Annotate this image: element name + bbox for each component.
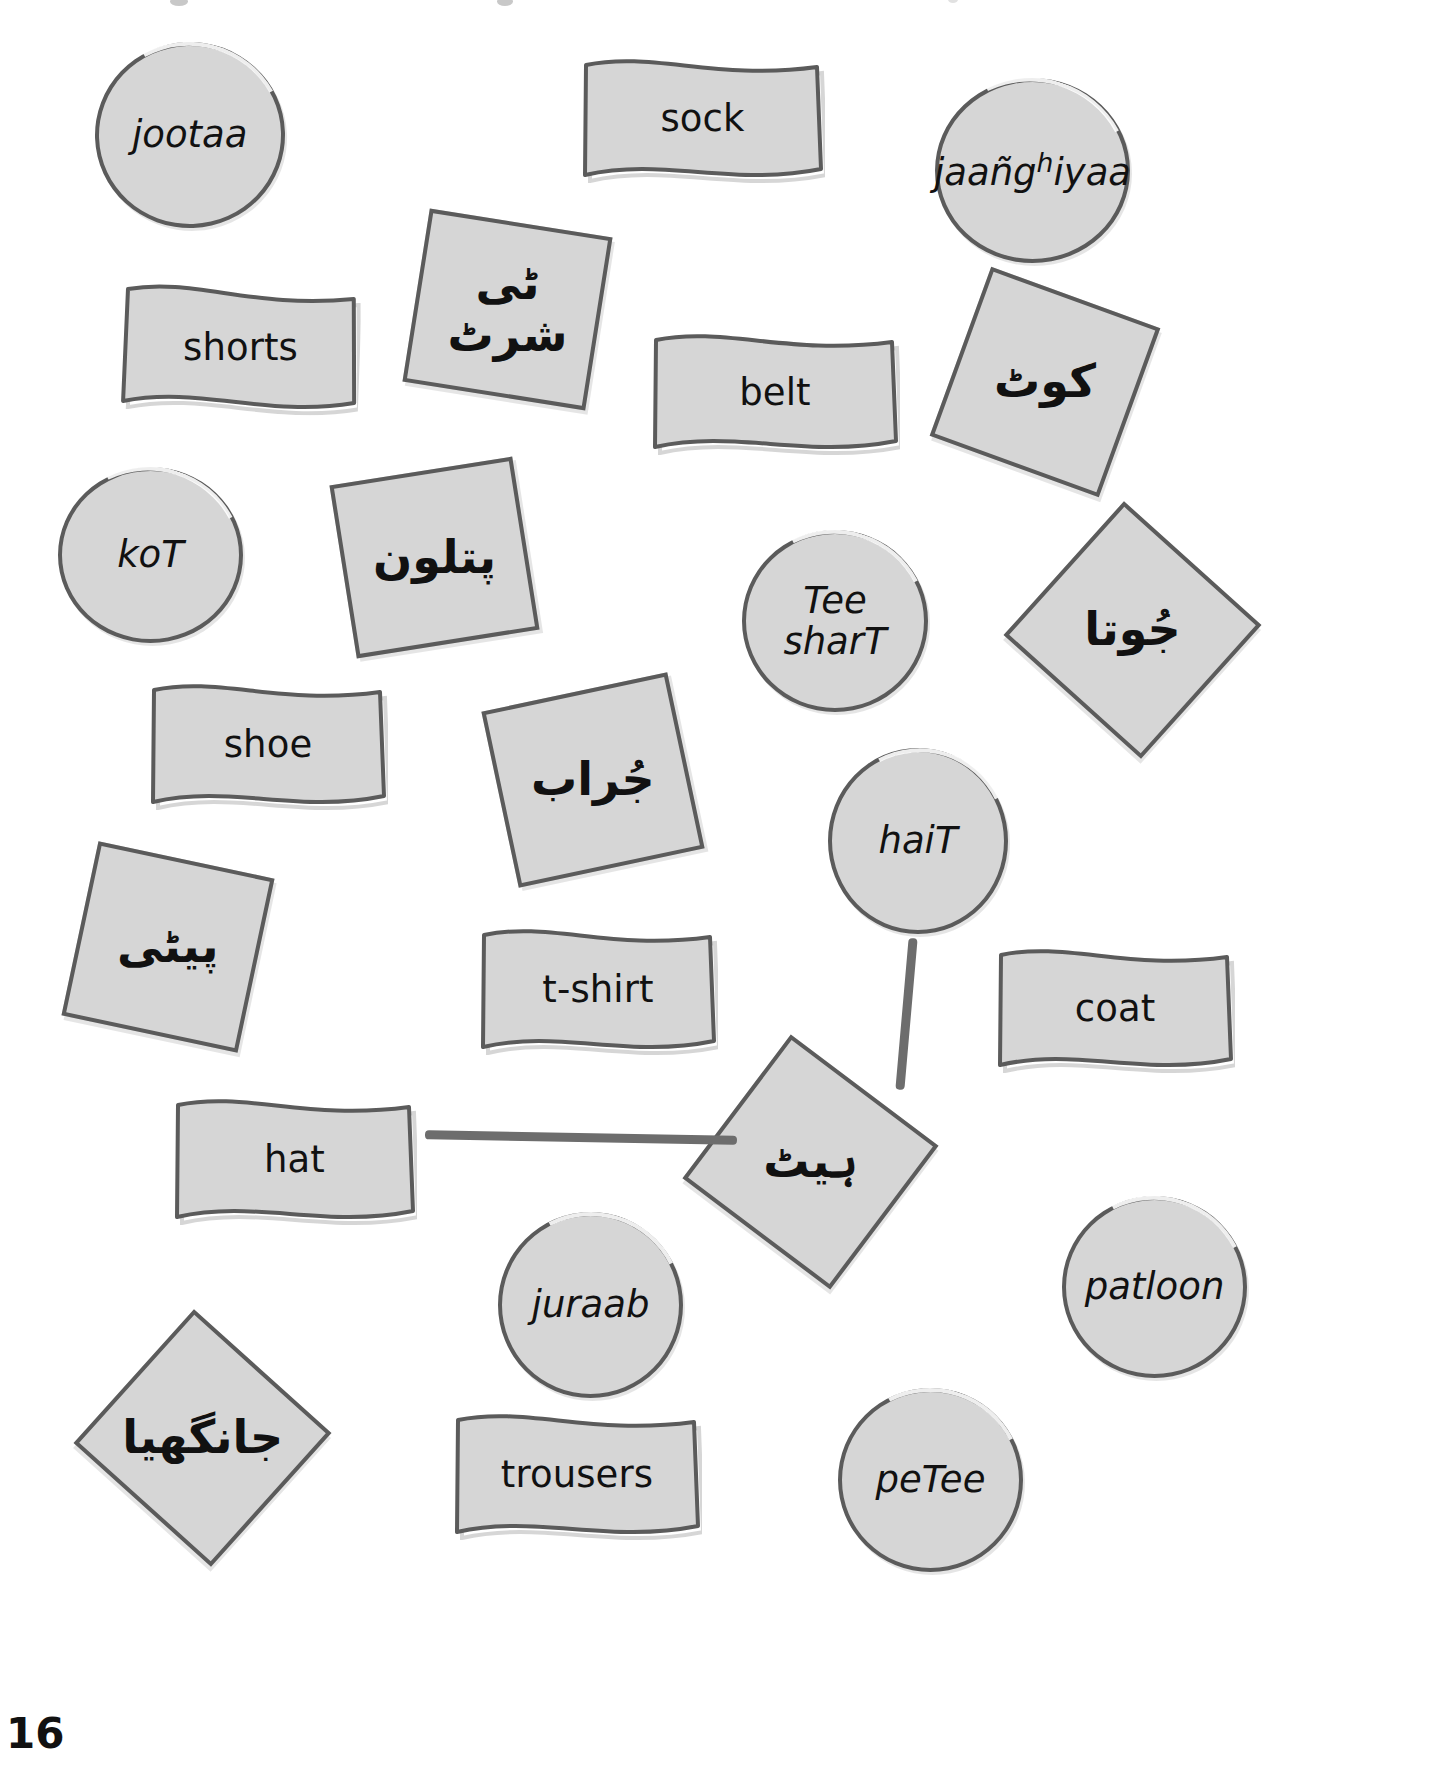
- card-label: جُوتا: [1074, 604, 1191, 656]
- card-surface: [452, 1410, 702, 1540]
- card-label: patloon: [1075, 1266, 1235, 1307]
- worksheet-page: jootaasockjaañghiyaashortsٹی شرٹbeltکوٹk…: [0, 0, 1450, 1766]
- word-card-belt-flag[interactable]: belt: [650, 330, 900, 455]
- word-card-tshirt-flag[interactable]: t-shirt: [478, 925, 718, 1055]
- card-label: پیٹی: [107, 921, 228, 973]
- word-card-petee-urdu[interactable]: پیٹی: [61, 841, 274, 1053]
- word-card-jaanghiyaa-urdu[interactable]: جانگھیا: [74, 1309, 332, 1567]
- card-label: ہیٹ: [753, 1136, 867, 1188]
- crop-mark: [170, 0, 188, 6]
- word-card-juraab-circle[interactable]: juraab: [498, 1212, 683, 1398]
- word-card-kot-urdu[interactable]: کوٹ: [930, 267, 1161, 498]
- card-surface: [995, 945, 1235, 1073]
- word-card-tee-shart-urdu[interactable]: ٹی شرٹ: [402, 209, 612, 411]
- word-card-jootaa-urdu[interactable]: جُوتا: [1004, 501, 1262, 759]
- word-card-shorts-flag[interactable]: shorts: [118, 279, 362, 417]
- word-card-hat-flag[interactable]: hat: [172, 1095, 417, 1225]
- card-label: jootaa: [122, 114, 257, 155]
- crop-mark: [948, 0, 958, 3]
- word-card-petee-circle[interactable]: peTee: [838, 1388, 1023, 1572]
- card-label: juraab: [522, 1284, 660, 1325]
- word-card-coat-flag[interactable]: coat: [995, 945, 1235, 1073]
- card-surface: [172, 1095, 417, 1225]
- word-card-sock-flag[interactable]: sock: [580, 55, 825, 183]
- page-number: 16: [6, 1709, 64, 1758]
- card-label: jaañghiyaa: [924, 148, 1141, 194]
- connector-line-hat-to-hait-urdu[interactable]: [425, 1130, 737, 1144]
- card-label: کوٹ: [984, 356, 1106, 408]
- card-label: پتلون: [363, 532, 506, 584]
- card-label: جُراب: [521, 754, 665, 806]
- word-card-hait-circle[interactable]: haiT: [828, 748, 1008, 934]
- word-card-shoe-flag[interactable]: shoe: [148, 680, 388, 810]
- card-label: جانگھیا: [112, 1412, 293, 1464]
- connector-line-hait-circle-to-hait-urdu[interactable]: [895, 938, 917, 1090]
- card-surface: [580, 55, 825, 183]
- card-label: TeesharT: [773, 580, 896, 663]
- word-card-jootaa-circle[interactable]: jootaa: [92, 39, 288, 232]
- word-card-patloon-circle[interactable]: patloon: [1062, 1196, 1247, 1378]
- word-card-trousers-flag[interactable]: trousers: [452, 1410, 702, 1540]
- card-label: koT: [107, 534, 194, 575]
- card-surface: [118, 279, 362, 417]
- card-label: ٹی شرٹ: [419, 258, 596, 361]
- word-card-juraab-urdu[interactable]: جُراب: [481, 672, 704, 888]
- crop-mark: [497, 0, 513, 6]
- card-surface: [478, 925, 718, 1055]
- word-card-kot-circle[interactable]: koT: [58, 467, 243, 643]
- word-card-jaanghiyaa-circle[interactable]: jaañghiyaa: [935, 78, 1130, 263]
- card-label-superscript: h: [1037, 147, 1054, 178]
- word-card-patloon-urdu[interactable]: پتلون: [329, 457, 539, 659]
- card-label: haiT: [868, 820, 967, 861]
- card-surface: [650, 330, 900, 455]
- word-card-tee-shart-circle[interactable]: TeesharT: [742, 530, 928, 712]
- card-surface: [148, 680, 388, 810]
- card-label: peTee: [866, 1459, 996, 1500]
